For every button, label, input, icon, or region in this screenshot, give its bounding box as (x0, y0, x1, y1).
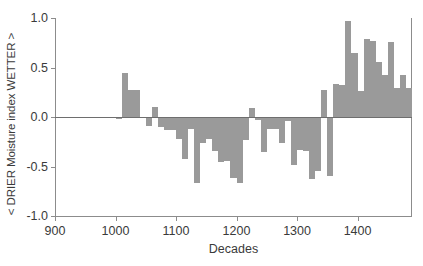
bar (134, 90, 140, 117)
x-tick-mark (237, 217, 238, 221)
x-tick-label: 1300 (274, 224, 320, 238)
x-tick-label: 1000 (93, 224, 139, 238)
bar (152, 107, 158, 117)
x-tick-label: 1200 (214, 224, 260, 238)
bar (321, 90, 327, 117)
x-tick-mark (358, 217, 359, 221)
zero-reference-line (55, 117, 412, 118)
x-tick-mark (116, 217, 117, 221)
y-tick-label: -1.0 (14, 210, 48, 222)
y-tick-label: 0.5 (14, 62, 48, 74)
y-axis-title: < DRIER Moisture index WETTER > (2, 8, 20, 240)
bar (327, 117, 333, 176)
bar (406, 88, 412, 117)
y-tick-label: 0.0 (14, 111, 48, 123)
x-tick-label: 1400 (335, 224, 381, 238)
x-tick-mark (55, 217, 56, 221)
bar (243, 117, 249, 140)
x-tick-mark (176, 217, 177, 221)
bar (249, 108, 255, 117)
x-tick-mark (297, 217, 298, 221)
x-tick-label: 1100 (153, 224, 199, 238)
x-tick-label: 900 (32, 224, 78, 238)
y-tick-label: -0.5 (14, 161, 48, 173)
chart-figure: < DRIER Moisture index WETTER > -1.0-0.5… (0, 0, 423, 266)
bar (146, 117, 152, 126)
y-tick-label: 1.0 (14, 12, 48, 24)
bar (315, 117, 321, 171)
x-axis-title: Decades (55, 242, 412, 256)
